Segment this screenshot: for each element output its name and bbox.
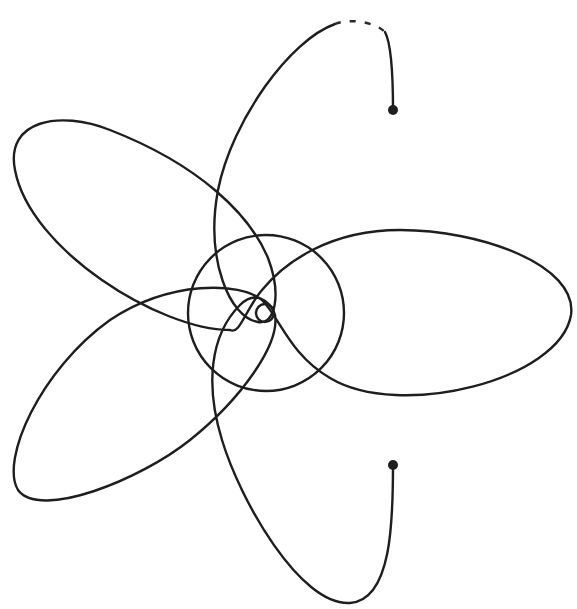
end-point-dot — [388, 105, 398, 115]
background — [0, 0, 577, 609]
start-point-dot — [388, 460, 398, 470]
orbit-diagram — [0, 0, 577, 609]
